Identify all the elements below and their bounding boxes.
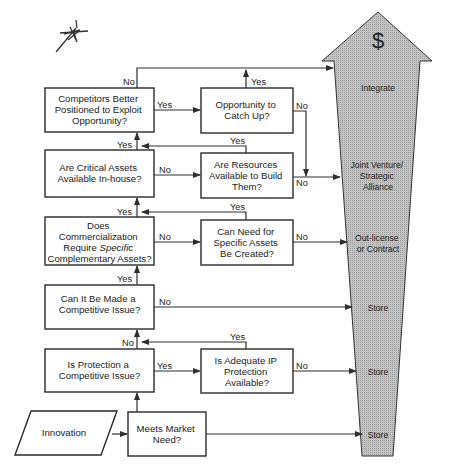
svg-text:Can Need for Specific As: Can Need for Specific Assets Be Created? [213,226,280,259]
commercialization-flowchart: $ Integrate Joint Venture/ Strategic All… [0,0,453,472]
label-competitors-yes: Yes [157,100,172,110]
box-protection: Is Protection a Competitive Issue? [45,349,154,392]
logo-star-icon [56,20,88,52]
label-catchup-no: No [296,101,308,111]
label-critical-yes: Yes [117,140,132,150]
dollar-icon: $ [372,28,384,53]
svg-text:Innovation: Innovation [42,427,86,438]
label-resources-yes: Yes [230,136,245,146]
box-market-need: Meets Market Need? [128,412,206,456]
svg-text:Are Critical Assets Avai: Are Critical Assets Available In-house? [57,162,141,184]
label-protection-yes: Yes [157,361,172,371]
outcome-store-2: Store [368,367,389,377]
box-resources-build: Are Resources Available to Build Them? [201,153,293,198]
label-needcreated-yes: Yes [230,202,245,212]
box-competitors-better: Competitors Better Positioned to Exploit… [45,88,154,132]
label-protection-no: No [122,338,134,348]
outcome-out-license: Out-license or Contract [355,233,401,254]
label-needcreated-no: No [296,232,308,242]
outcome-integrate: Integrate [361,83,395,93]
box-critical-assets: Are Critical Assets Available In-house? [45,150,154,197]
label-requires-no: No [159,232,171,242]
label-requires-yes: Yes [117,207,132,217]
label-resources-no: No [296,178,308,188]
box-catch-up: Opportunity to Catch Up? [201,88,293,133]
value-arrow: $ Integrate Joint Venture/ Strategic All… [322,12,432,456]
label-adequateip-yes: Yes [230,332,245,342]
label-makecompetitive-yes: Yes [117,274,132,284]
svg-text:Is Protection a Competit: Is Protection a Competitive Issue? [59,359,141,381]
label-competitors-no: No [123,77,135,87]
box-requires-assets: Does Commercialization Require Specific … [45,217,154,265]
svg-text:Opportunity to Catch Up?: Opportunity to Catch Up? [216,99,279,121]
svg-text:Can It Be Made a Competi: Can It Be Made a Competitive Issue? [59,293,141,315]
box-make-competitive: Can It Be Made a Competitive Issue? [45,285,154,329]
label-makecompetitive-no: No [159,297,171,307]
start-innovation: Innovation [15,411,117,455]
box-need-created: Can Need for Specific Assets Be Created? [201,220,293,265]
label-critical-no: No [159,165,171,175]
label-catchup-yes: Yes [251,77,266,87]
box-adequate-ip: Is Adequate IP Protection Available? [201,349,293,393]
outcome-store-3: Store [368,430,389,440]
outcome-store-1: Store [368,303,389,313]
label-adequateip-no: No [296,361,308,371]
